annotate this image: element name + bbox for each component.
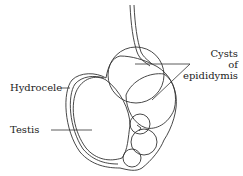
cysts-of-epididymis — [108, 47, 176, 167]
label-cysts-line3: epididymis — [183, 70, 238, 81]
label-cysts-line1: Cysts — [183, 48, 238, 59]
label-cysts-line2: of — [183, 59, 238, 70]
hydrocele-sac — [66, 56, 177, 170]
label-cysts-of-epididymis: Cysts of epididymis — [183, 48, 238, 81]
label-hydrocele: Hydrocele — [10, 82, 62, 93]
spermatic-cord — [130, 5, 152, 66]
label-testis: Testis — [10, 124, 39, 135]
